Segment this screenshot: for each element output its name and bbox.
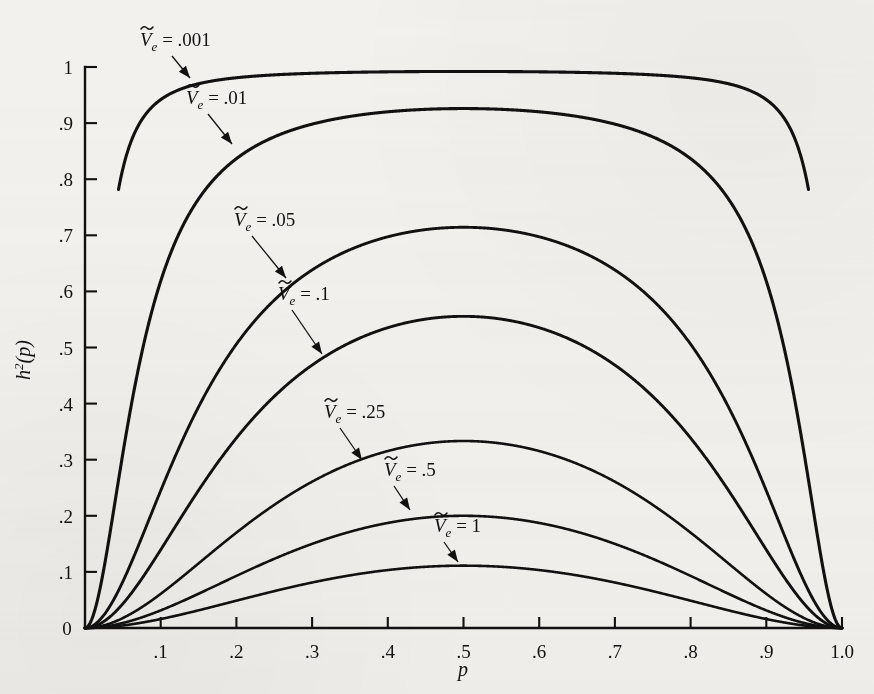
annotation-arrowhead-icon: [179, 66, 190, 78]
svg-text:Ve = .05: Ve = .05: [234, 209, 295, 234]
y-axis-tick-labels: .1.2.3.4.5.6.7.8.91: [59, 57, 74, 583]
x-axis-tick-label: .1: [154, 641, 168, 662]
curve-annotation-label: Ve = .001: [140, 27, 211, 54]
y-axis-tick-label: .1: [59, 562, 73, 583]
x-axis-tick-label: .8: [683, 641, 697, 662]
y-axis-tick-label: .4: [59, 394, 74, 415]
x-axis-tick-label: .2: [229, 641, 243, 662]
annotation-arrowhead-icon: [400, 497, 410, 510]
curve-annotation-label: Ve = .05: [234, 207, 295, 234]
annotation-arrowhead-icon: [351, 448, 362, 460]
svg-text:Ve = .1: Ve = .1: [278, 283, 330, 308]
x-axis-tick-label: .4: [381, 641, 396, 662]
y-axis-tick-label: .8: [59, 169, 73, 190]
curve-annotation-label: Ve = .5: [384, 457, 436, 484]
y-axis-tick-label: .5: [59, 338, 73, 359]
curve-annotation-label: Ve = .1: [278, 281, 330, 308]
x-axis-tick-label: .9: [759, 641, 773, 662]
x-axis-title: p: [456, 658, 468, 681]
y-axis-tick-label: .3: [59, 450, 73, 471]
axes-group: [85, 67, 842, 628]
annotation-arrowhead-icon: [311, 341, 322, 354]
data-curve: [85, 316, 842, 628]
annotation-label-group: Ve = .001Ve = .01Ve = .05Ve = .1Ve = .25…: [140, 27, 481, 540]
annotation-arrowhead-icon: [275, 266, 286, 278]
chart-canvas: 0.1.2.3.4.5.6.7.8.91.0 .1.2.3.4.5.6.7.8.…: [0, 0, 874, 694]
x-axis-ticks: [161, 617, 842, 628]
annotation-leader-group: [172, 56, 458, 562]
x-axis-tick-labels: 0.1.2.3.4.5.6.7.8.91.0: [62, 618, 854, 662]
svg-text:Ve = .01: Ve = .01: [186, 87, 247, 112]
x-axis-tick-label: .6: [532, 641, 546, 662]
curve-annotation-label: Ve = .25: [324, 399, 385, 426]
curve-group: [85, 71, 842, 628]
svg-text:h2(p): h2(p): [11, 340, 35, 380]
y-axis-title: h2(p): [11, 340, 35, 380]
annotation-arrowhead-icon: [447, 550, 458, 562]
svg-text:Ve = .001: Ve = .001: [140, 29, 211, 54]
svg-text:Ve = 1: Ve = 1: [434, 515, 481, 540]
figure-root: 0.1.2.3.4.5.6.7.8.91.0 .1.2.3.4.5.6.7.8.…: [0, 0, 874, 694]
curve-annotation-label: Ve = 1: [434, 513, 481, 540]
x-axis-tick-label: 1.0: [830, 641, 854, 662]
x-axis-tick-label: .3: [305, 641, 319, 662]
x-axis-tick-label: .7: [608, 641, 622, 662]
curve-annotation-label: Ve = .01: [186, 85, 247, 112]
y-axis-tick-label: 1: [64, 57, 74, 78]
y-axis-ticks: [85, 67, 97, 572]
svg-text:Ve = .25: Ve = .25: [324, 401, 385, 426]
y-axis-tick-label: .7: [59, 225, 73, 246]
y-axis-tick-label: .2: [59, 506, 73, 527]
svg-text:Ve = .5: Ve = .5: [384, 459, 436, 484]
data-curve: [85, 227, 842, 628]
y-axis-tick-label: .9: [59, 113, 73, 134]
y-axis-tick-label: .6: [59, 281, 73, 302]
x-axis-tick-label: 0: [62, 618, 72, 639]
annotation-arrowhead-icon: [221, 132, 232, 144]
data-curve: [85, 109, 842, 628]
